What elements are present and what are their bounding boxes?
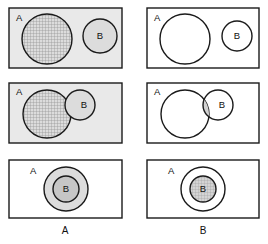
set-label-a: A xyxy=(30,165,37,176)
set-label-a: A xyxy=(154,12,161,23)
column-caption-b: B xyxy=(200,225,207,236)
panel-r3c1: A B xyxy=(9,160,122,218)
set-label-a: A xyxy=(16,12,23,23)
set-label-a: A xyxy=(154,86,161,97)
set-label-b: B xyxy=(200,183,206,194)
set-diagram-figure: A B A B A B A B xyxy=(0,0,268,244)
column-caption-a: A xyxy=(62,225,69,236)
set-label-a: A xyxy=(16,86,23,97)
set-circle-a xyxy=(23,90,71,138)
panel-r2c2: A B xyxy=(147,83,259,143)
set-label-a: A xyxy=(168,165,175,176)
set-circle-a xyxy=(161,90,209,138)
set-label-b: B xyxy=(63,183,69,194)
set-label-b: B xyxy=(219,99,225,110)
set-label-b: B xyxy=(234,30,240,41)
panel-r3c2: A B xyxy=(147,160,259,218)
panel-r1c2: A B xyxy=(147,8,259,68)
panel-r1c1: A B xyxy=(9,8,122,68)
set-circle-a xyxy=(22,14,72,64)
figure-canvas: A B A B A B A B xyxy=(0,0,268,244)
set-label-b: B xyxy=(81,99,87,110)
set-circle-a xyxy=(160,14,210,64)
set-label-b: B xyxy=(97,30,103,41)
panel-r2c1: A B xyxy=(9,83,122,143)
